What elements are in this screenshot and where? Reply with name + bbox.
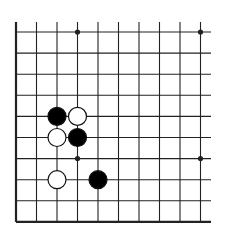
black-stone-icon	[69, 129, 87, 147]
star-point-icon	[198, 156, 203, 161]
black-stone-icon	[89, 171, 107, 189]
star-point-icon	[198, 29, 203, 34]
grid-lines	[16, 22, 211, 222]
go-board	[0, 0, 227, 237]
white-stone-icon	[48, 129, 66, 147]
white-stone-icon	[69, 107, 87, 125]
white-stone-icon	[48, 171, 66, 189]
black-stone-icon	[48, 107, 66, 125]
star-point-icon	[75, 156, 80, 161]
star-point-icon	[75, 29, 80, 34]
